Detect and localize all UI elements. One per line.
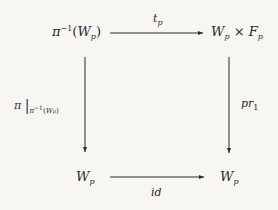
w-symbol: W	[77, 24, 90, 39]
label-bottom-arrow: id	[151, 187, 162, 198]
one-subscript: 1	[253, 103, 258, 112]
w-symbol: W	[211, 24, 224, 39]
p-subscript: p	[224, 32, 229, 41]
pi-symbol: π	[52, 24, 61, 39]
w-symbol: W	[220, 169, 233, 184]
inverse-superscript: −1	[61, 24, 73, 33]
id-label: id	[151, 186, 162, 199]
node-top-left: π−1(Wp)	[52, 25, 101, 41]
pi-symbol: π	[14, 99, 21, 112]
restriction-subscript: π−1(Wp)	[29, 107, 58, 115]
w-symbol: W	[46, 107, 53, 115]
paren-close: )	[96, 24, 101, 39]
label-right-arrow: pr1	[241, 98, 258, 112]
node-bottom-right: Wp	[220, 170, 239, 186]
p-subscript: p	[157, 18, 162, 27]
node-bottom-left: Wp	[76, 170, 95, 186]
label-top-arrow: tp	[153, 13, 163, 27]
node-top-right: Wp × Fp	[211, 25, 263, 41]
paren-close: )	[56, 107, 59, 115]
label-left-arrow: π |π−1(Wp)	[14, 98, 59, 115]
inverse-superscript: −1	[34, 104, 43, 111]
pr-label: pr	[241, 97, 253, 110]
p-subscript: p	[258, 32, 263, 41]
p-subscript: p	[89, 177, 94, 186]
times-symbol: ×	[234, 24, 245, 39]
w-symbol: W	[76, 169, 89, 184]
f-symbol: F	[249, 24, 258, 39]
p-subscript: p	[233, 177, 238, 186]
